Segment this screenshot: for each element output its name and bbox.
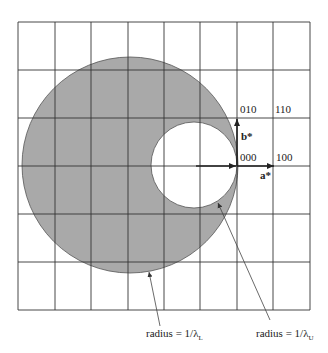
label-110: 110 [275, 104, 291, 115]
diagram-canvas [0, 0, 328, 353]
label-a-star: a* [260, 170, 271, 181]
label-010: 010 [240, 104, 257, 115]
label-000: 000 [240, 152, 257, 163]
label-radius-lambda-L: radius = 1/λL [146, 328, 203, 342]
label-radius-lambda-U: radius = 1/λU [256, 328, 314, 342]
leader-line-lambda-L [149, 272, 160, 326]
label-b-star: b* [241, 131, 253, 142]
radius-L-text: radius = 1/λ [146, 327, 198, 339]
radius-L-subscript: L [198, 334, 202, 342]
radius-U-text: radius = 1/λ [256, 327, 308, 339]
leader-line-lambda-U [218, 203, 270, 320]
label-100: 100 [276, 152, 293, 163]
radius-U-subscript: U [308, 334, 313, 342]
